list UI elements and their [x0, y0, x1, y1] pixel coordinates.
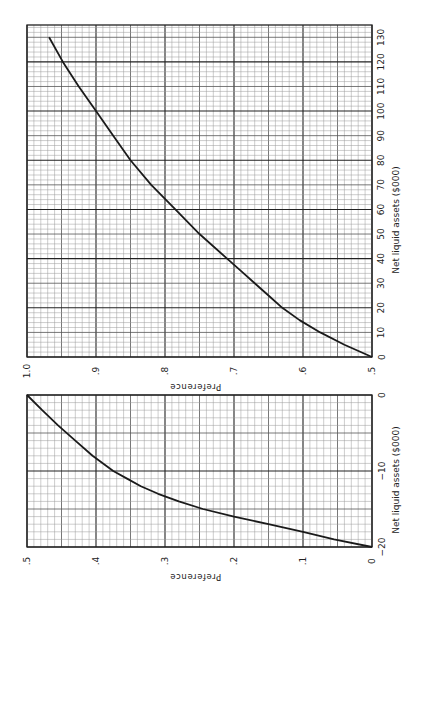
top-chart: .5.6.7.8.91.0Preference01020304050607080… — [22, 25, 401, 392]
y-tick-label: .6 — [298, 366, 308, 375]
page: .5.6.7.8.91.0Preference01020304050607080… — [0, 0, 427, 728]
bottom-chart: 0.1.2.3.4.5Preference−20−100Net liquid a… — [22, 392, 401, 582]
x-tick-label: 80 — [377, 154, 387, 166]
x-tick-label: 30 — [377, 277, 387, 289]
x-axis-title: Net liquid assets ($000) — [391, 166, 401, 274]
y-axis-title: Preference — [170, 382, 222, 392]
y-tick-label: .9 — [91, 366, 101, 375]
x-tick-label: 10 — [377, 326, 387, 338]
x-tick-label: 120 — [377, 53, 387, 70]
x-tick-label: 50 — [377, 228, 387, 240]
y-tick-label: 1.0 — [22, 364, 32, 379]
y-tick-label: .2 — [229, 557, 239, 566]
x-tick-label: 110 — [377, 78, 387, 95]
x-tick-label: 60 — [377, 203, 387, 215]
y-tick-label: .3 — [160, 557, 170, 566]
x-tick-label: 20 — [377, 302, 387, 314]
x-tick-label: 0 — [377, 392, 387, 398]
y-tick-label: .8 — [160, 366, 170, 375]
y-tick-label: .5 — [22, 557, 32, 566]
x-tick-label: 70 — [377, 179, 387, 191]
y-tick-label: .4 — [91, 556, 101, 565]
y-tick-label: .7 — [229, 367, 239, 376]
charts-canvas: .5.6.7.8.91.0Preference01020304050607080… — [0, 0, 427, 728]
x-tick-label: 130 — [377, 28, 387, 45]
x-axis-title: Net liquid assets ($000) — [391, 426, 401, 534]
x-tick-label: 90 — [377, 130, 387, 142]
y-tick-label: 0 — [367, 558, 377, 564]
x-tick-label: −20 — [377, 537, 387, 556]
y-axis-title: Preference — [170, 572, 222, 582]
x-tick-label: 0 — [377, 354, 387, 360]
x-tick-label: 100 — [377, 102, 387, 119]
x-tick-label: 40 — [377, 253, 387, 265]
y-tick-label: .5 — [367, 367, 377, 376]
x-tick-label: −10 — [377, 461, 387, 480]
y-tick-label: .1 — [298, 557, 308, 566]
